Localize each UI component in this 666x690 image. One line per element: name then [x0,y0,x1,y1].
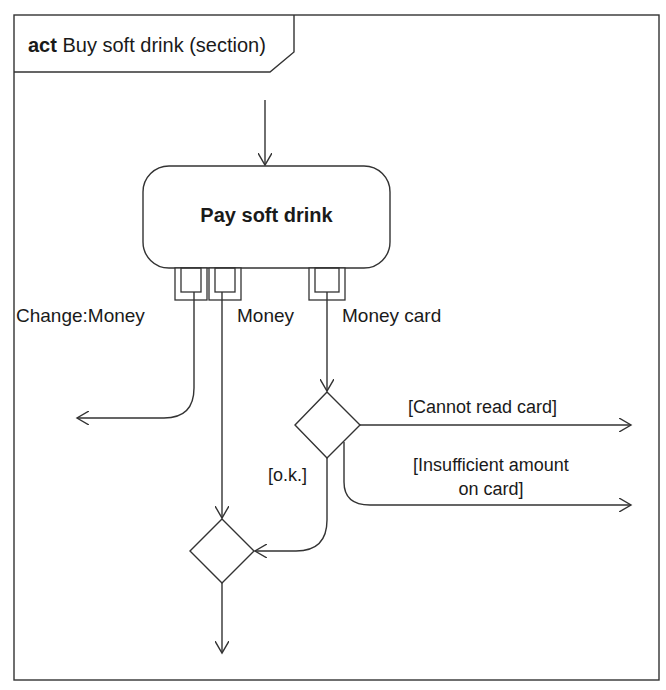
frame-keyword: act [28,34,57,56]
frame-title-text: Buy soft drink (section) [62,34,265,56]
merge-node[interactable] [190,519,254,583]
pin-change-money[interactable] [175,268,207,300]
guard-cannot-read-card: [Cannot read card] [408,397,557,418]
guard-insufficient-amount-line2: on card] [396,479,586,500]
decision-node-card[interactable] [295,392,360,458]
activity-frame [14,15,659,680]
guard-insufficient-amount-line1: [Insufficient amount [396,455,586,476]
guard-ok: [o.k.] [268,465,307,486]
pin-label-money: Money [237,305,294,327]
activity-diagram-canvas [0,0,666,690]
pin-money[interactable] [209,268,241,300]
pin-label-money-card: Money card [342,305,441,327]
frame-title: act Buy soft drink (section) [28,34,266,57]
pin-label-change-money: Change:Money [16,305,145,327]
action-name: Pay soft drink [143,204,390,227]
